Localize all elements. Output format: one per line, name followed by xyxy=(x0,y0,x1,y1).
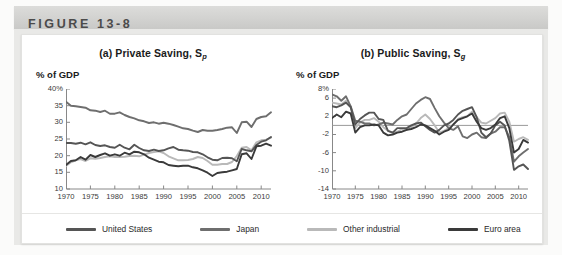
y-tick-label: 6 xyxy=(305,93,329,102)
legend-item[interactable]: Euro area xyxy=(448,224,521,234)
x-tick-label: 1975 xyxy=(342,192,368,201)
panel-a-title: (a) Private Saving, Sp xyxy=(22,47,284,59)
x-tick-label: 1980 xyxy=(102,192,128,201)
y-tick-label: -10 xyxy=(305,166,329,175)
legend-item[interactable]: Japan xyxy=(200,224,259,234)
legend-label: Japan xyxy=(236,224,259,234)
legend-label: United States xyxy=(102,224,152,234)
panel-a-title-subscript: p xyxy=(202,52,207,61)
figure-card: (a) Private Saving, Sp % of GDP 40%35302… xyxy=(21,34,543,244)
chart-legend: United StatesJapanOther industrialEuro a… xyxy=(22,213,542,243)
x-tick-label: 1985 xyxy=(389,192,415,201)
figure-root: FIGURE 13-8 (a) Private Saving, Sp % of … xyxy=(0,0,562,255)
x-tick-label: 1995 xyxy=(436,192,462,201)
y-tick-label: 15 xyxy=(41,167,63,176)
x-tick-label: 2005 xyxy=(482,192,508,201)
panel-b-title: (b) Public Saving, Sg xyxy=(284,47,542,59)
plot-svg xyxy=(66,89,273,191)
x-tick-label: 1995 xyxy=(175,192,201,201)
x-tick-label: 1985 xyxy=(126,192,152,201)
legend-label: Other industrial xyxy=(343,224,400,234)
y-tick-label: 30 xyxy=(41,117,63,126)
legend-line-swatch-icon xyxy=(66,228,96,231)
legend-line-swatch-icon xyxy=(200,228,230,231)
panel-b-title-subscript: g xyxy=(461,52,466,61)
panel-a-ylabel: % of GDP xyxy=(36,69,79,80)
panel-a-plot-area xyxy=(66,89,273,191)
legend-line-swatch-icon xyxy=(448,228,478,231)
panel-b-title-text: (b) Public Saving, S xyxy=(361,47,461,59)
x-tick-label: 1990 xyxy=(151,192,177,201)
plot-svg xyxy=(332,89,530,191)
x-tick-label: 1990 xyxy=(412,192,438,201)
x-tick-label: 1970 xyxy=(53,192,79,201)
y-tick-label: 20 xyxy=(41,151,63,160)
x-tick-label: 1975 xyxy=(77,192,103,201)
figure-header-band: FIGURE 13-8 xyxy=(14,6,548,29)
axis-lines xyxy=(333,89,529,189)
legend-row: United StatesJapanOther industrialEuro a… xyxy=(22,220,542,238)
legend-item[interactable]: Other industrial xyxy=(307,224,400,234)
x-tick-label: 1970 xyxy=(319,192,345,201)
legend-item[interactable]: United States xyxy=(66,224,152,234)
chart-panel-public-saving: (b) Public Saving, Sg % of GDP 8%62-2-6-… xyxy=(284,35,542,211)
x-tick-label: 1980 xyxy=(366,192,392,201)
series-line-japan xyxy=(66,102,271,133)
x-tick-label: 2005 xyxy=(224,192,250,201)
y-tick-label: 2 xyxy=(305,111,329,120)
y-tick-label: 40% xyxy=(41,84,63,93)
series-line-united-states xyxy=(332,103,528,170)
y-tick-label: -2 xyxy=(305,129,329,138)
x-tick-label: 2010 xyxy=(506,192,532,201)
x-tick-label: 2010 xyxy=(248,192,274,201)
y-tick-label: 35 xyxy=(41,101,63,110)
y-tick-label: 8% xyxy=(305,84,329,93)
y-tick-label: 25 xyxy=(41,134,63,143)
legend-label: Euro area xyxy=(484,224,521,234)
legend-line-swatch-icon xyxy=(307,228,337,231)
axis-lines xyxy=(67,89,272,189)
x-tick-label: 2000 xyxy=(459,192,485,201)
panel-a-title-text: (a) Private Saving, S xyxy=(99,47,202,59)
panel-b-plot-area xyxy=(332,89,530,191)
panel-b-ylabel: % of GDP xyxy=(296,69,339,80)
y-tick-label: -6 xyxy=(305,148,329,157)
x-tick-label: 2000 xyxy=(199,192,225,201)
chart-panel-private-saving: (a) Private Saving, Sp % of GDP 40%35302… xyxy=(22,35,284,211)
